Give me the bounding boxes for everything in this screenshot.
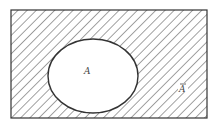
set-a-label: A bbox=[83, 66, 91, 76]
set-a-ellipse bbox=[48, 39, 138, 113]
complement-letter: A bbox=[178, 84, 186, 94]
venn-diagram: A A bbox=[0, 0, 215, 133]
